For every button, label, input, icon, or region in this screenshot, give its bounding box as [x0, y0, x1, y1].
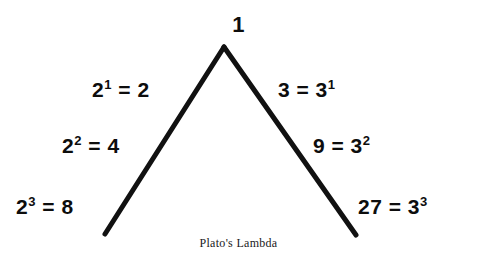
right-1-exponent: 1 [328, 77, 336, 92]
right-2-exponent: 2 [363, 133, 371, 148]
left-3-result: = 8 [42, 195, 73, 218]
apex-value-1: 1 [0, 14, 477, 36]
right-3-exponent: 3 [420, 194, 428, 209]
left-label-2-pow-2: 22 = 4 [62, 135, 120, 156]
left-label-2-pow-3: 23 = 8 [16, 196, 74, 217]
left-3-exponent: 3 [28, 194, 36, 209]
lambda-diagram [0, 0, 477, 257]
platos-lambda-figure: 1 21 = 2 22 = 4 23 = 8 3 = 31 9 = 32 27 … [0, 0, 477, 257]
left-label-2-pow-1: 21 = 2 [92, 79, 150, 100]
right-2-value: 9 = 3 [313, 134, 363, 157]
right-3-value: 27 = 3 [358, 195, 420, 218]
right-label-3-pow-3: 27 = 33 [358, 196, 428, 217]
right-label-3-pow-1: 3 = 31 [278, 79, 336, 100]
right-label-3-pow-2: 9 = 32 [313, 135, 371, 156]
left-2-base: 2 [62, 134, 74, 157]
lambda-left-leg [105, 47, 224, 234]
left-1-base: 2 [92, 78, 104, 101]
left-1-result: = 2 [118, 78, 149, 101]
left-1-exponent: 1 [104, 77, 112, 92]
left-3-base: 2 [16, 195, 28, 218]
left-2-result: = 4 [88, 134, 119, 157]
figure-caption: Plato's Lambda [0, 236, 477, 251]
right-1-value: 3 = 3 [278, 78, 328, 101]
left-2-exponent: 2 [74, 133, 82, 148]
